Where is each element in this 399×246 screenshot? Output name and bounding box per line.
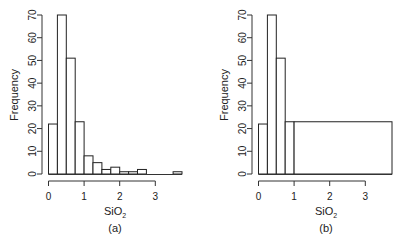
x-axis-title: SiO2 xyxy=(104,205,126,219)
x-tick-label: 3 xyxy=(363,191,369,202)
y-tick-label: 20 xyxy=(237,123,248,135)
y-tick-label: 10 xyxy=(237,145,248,157)
histogram-bar xyxy=(93,163,102,174)
x-tick-label: 2 xyxy=(327,191,333,202)
histogram-bar xyxy=(84,156,93,174)
panel-caption: (a) xyxy=(108,222,121,234)
y-tick-label: 40 xyxy=(237,77,248,89)
y-tick-label: 50 xyxy=(27,54,38,66)
y-tick-label: 60 xyxy=(27,32,38,44)
histogram-bar xyxy=(285,122,294,174)
histogram-bars xyxy=(259,15,393,175)
x-tick-label: 2 xyxy=(117,191,123,202)
x-axis: 0123SiO2 xyxy=(256,181,369,219)
x-axis-title: SiO2 xyxy=(315,205,337,219)
y-tick-label: 60 xyxy=(237,32,248,44)
histogram-bar xyxy=(259,124,268,174)
histogram-figure: 010203040506070Frequency0123SiO2(a)01020… xyxy=(0,0,399,246)
histogram-bar xyxy=(276,58,285,174)
y-axis-title: Frequency xyxy=(218,69,230,121)
y-tick-label: 0 xyxy=(27,171,38,177)
y-tick-label: 50 xyxy=(237,54,248,66)
histogram-bar xyxy=(267,15,276,174)
histogram-bar xyxy=(57,15,66,174)
y-axis-title: Frequency xyxy=(8,69,20,121)
histogram-bar xyxy=(102,169,111,174)
y-tick-label: 0 xyxy=(237,171,248,177)
x-axis: 0123SiO2 xyxy=(46,181,159,219)
x-tick-label: 3 xyxy=(153,191,159,202)
x-tick-label: 0 xyxy=(46,191,52,202)
histogram-bar xyxy=(75,122,84,174)
y-tick-label: 70 xyxy=(27,9,38,21)
histogram-panel-a: 010203040506070Frequency0123SiO2(a) xyxy=(8,9,182,234)
histogram-bars xyxy=(49,15,183,175)
x-tick-label: 1 xyxy=(81,191,87,202)
histogram-bar xyxy=(120,172,129,174)
histogram-bar xyxy=(294,122,392,174)
y-tick-label: 40 xyxy=(27,77,38,89)
y-axis: 010203040506070Frequency xyxy=(218,9,252,177)
histogram-bar xyxy=(129,172,138,174)
histogram-bar xyxy=(111,167,120,174)
histogram-bar xyxy=(66,58,75,174)
y-tick-label: 70 xyxy=(237,9,248,21)
histogram-bar xyxy=(173,172,182,174)
y-tick-label: 30 xyxy=(237,100,248,112)
histogram-panel-b: 010203040506070Frequency0123SiO2(b) xyxy=(218,9,392,234)
x-tick-label: 0 xyxy=(256,191,262,202)
y-tick-label: 30 xyxy=(27,100,38,112)
histogram-bar xyxy=(138,169,147,174)
y-tick-label: 20 xyxy=(27,123,38,135)
y-tick-label: 10 xyxy=(27,145,38,157)
x-tick-label: 1 xyxy=(291,191,297,202)
y-axis: 010203040506070Frequency xyxy=(8,9,42,177)
panel-caption: (b) xyxy=(319,222,332,234)
histogram-bar xyxy=(49,124,58,174)
